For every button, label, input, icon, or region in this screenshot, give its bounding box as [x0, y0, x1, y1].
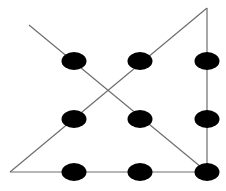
dot-r2-c1 [128, 163, 153, 181]
lines-layer [10, 8, 207, 172]
dot-r2-c0 [62, 163, 87, 181]
diagram-svg [0, 0, 226, 191]
dot-r1-c1 [128, 110, 153, 128]
dot-r0-c0 [62, 52, 87, 70]
dot-r0-c1 [128, 52, 153, 70]
dot-r1-c2 [195, 110, 220, 128]
dot-r0-c2 [195, 52, 220, 70]
nine-dots-diagram [0, 0, 226, 191]
dot-r1-c0 [62, 110, 87, 128]
dot-r2-c2 [195, 163, 220, 181]
line-1-diagonal-down [29, 25, 207, 172]
